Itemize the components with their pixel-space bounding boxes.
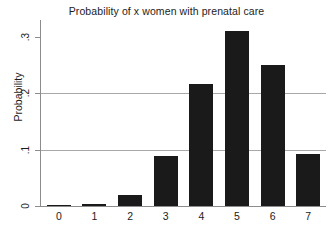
x-axis-line [40,206,326,207]
x-tick-label: 3 [151,210,181,222]
bar-chart: Probability of x women with prenatal car… [0,0,333,228]
x-tick-label: 1 [79,210,109,222]
x-tick-label: 7 [293,210,323,222]
bar [261,65,285,206]
bar [296,154,320,206]
bar [118,195,142,206]
x-tick-label: 2 [115,210,145,222]
x-tick-label: 6 [258,210,288,222]
bar [225,31,249,206]
x-tick-label: 0 [44,210,74,222]
bar [82,204,106,206]
x-tick-label: 5 [222,210,252,222]
bars-layer [0,0,333,206]
bar [47,205,71,206]
x-tick-label: 4 [186,210,216,222]
bar [189,84,213,206]
y-tick-mark [35,206,40,207]
bar [154,156,178,206]
